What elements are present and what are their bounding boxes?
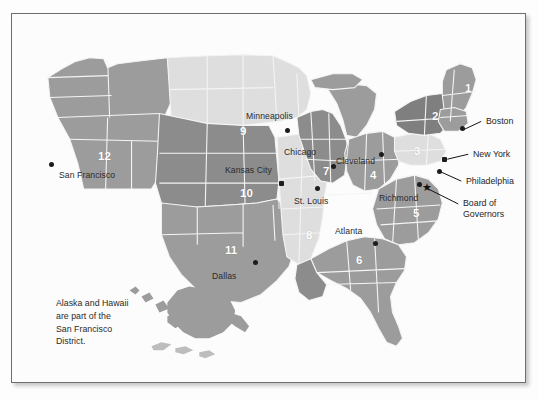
district-number-11: 11 — [225, 245, 237, 257]
district-number-12: 12 — [98, 151, 111, 163]
city-dot-kansas-city — [279, 181, 284, 186]
district-number-1: 1 — [465, 83, 471, 95]
district-number-4: 4 — [370, 170, 376, 182]
callout-label-philadelphia: Philadelphia — [466, 176, 514, 187]
city-label-kansas-city: Kansas City — [225, 166, 272, 175]
figure-root: 1 2 3 4 5 6 7 8 9 10 11 12 Minneapolis C… — [0, 0, 539, 401]
leader-line-boston — [464, 121, 481, 129]
city-label-dallas: Dallas — [212, 272, 236, 281]
callout-dot-philadelphia — [437, 169, 442, 174]
city-label-san-francisco: San Francisco — [59, 171, 115, 180]
board-of-governors-star-icon: ★ — [422, 182, 432, 193]
district-number-6: 6 — [356, 255, 362, 267]
city-dot-dallas — [253, 260, 258, 265]
city-dot-st-louis — [315, 186, 320, 191]
callout-label-new-york: New York — [473, 149, 510, 160]
city-dot-minneapolis — [285, 128, 290, 133]
city-label-minneapolis: Minneapolis — [246, 112, 293, 121]
map-frame: 1 2 3 4 5 6 7 8 9 10 11 12 Minneapolis C… — [11, 13, 526, 383]
city-label-richmond: Richmond — [379, 194, 419, 203]
district-number-5: 5 — [413, 208, 419, 220]
district-number-2: 2 — [432, 111, 438, 123]
district-number-9: 9 — [240, 126, 246, 138]
city-label-atlanta: Atlanta — [335, 227, 362, 236]
city-label-st-louis: St. Louis — [294, 197, 328, 206]
leader-line-new-york — [447, 154, 468, 159]
city-label-cleveland: Cleveland — [336, 157, 375, 166]
city-dot-atlanta — [373, 241, 378, 246]
city-dot-san-francisco — [49, 162, 54, 167]
district-number-10: 10 — [240, 188, 253, 200]
district-number-7: 7 — [323, 166, 329, 178]
annotation-layer: 1 2 3 4 5 6 7 8 9 10 11 12 Minneapolis C… — [12, 14, 525, 382]
callout-label-boston: Boston — [486, 116, 513, 127]
callout-dot-new-york — [442, 157, 447, 162]
district-number-8: 8 — [306, 230, 312, 242]
alaska-hawaii-note: Alaska and Hawaii are part of the San Fr… — [56, 297, 128, 348]
city-label-chicago: Chicago — [284, 148, 316, 157]
map-stage: 1 2 3 4 5 6 7 8 9 10 11 12 Minneapolis C… — [12, 14, 525, 382]
city-dot-cleveland — [379, 152, 384, 157]
callout-label-board-of-governors: Board of Governors — [463, 198, 504, 221]
callout-dot-boston — [460, 126, 465, 131]
district-number-3: 3 — [414, 146, 420, 158]
leader-line-philadelphia — [441, 172, 461, 181]
